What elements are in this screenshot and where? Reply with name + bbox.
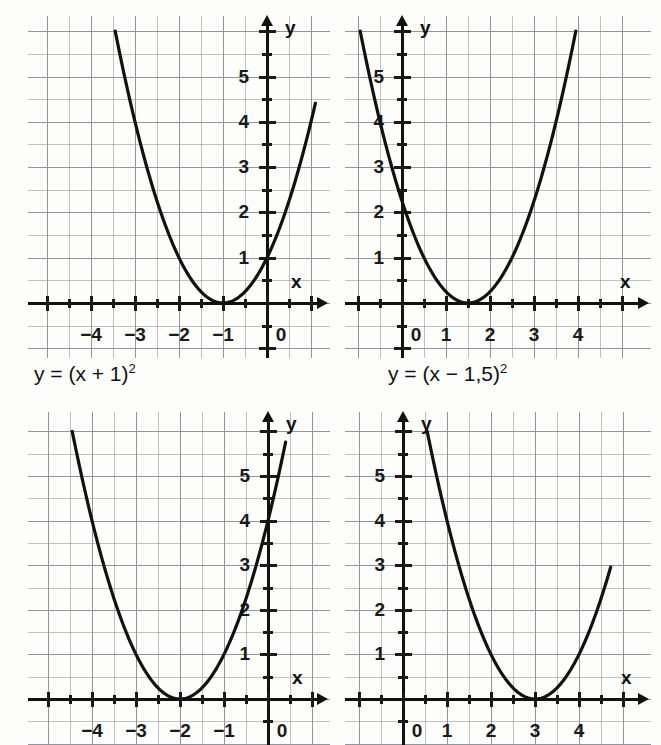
function-label-base: y = (x − 1,5) xyxy=(388,362,500,385)
parabola-curve xyxy=(345,412,651,745)
function-label-exponent: 2 xyxy=(129,361,136,376)
function-label-base: y = (x + 1) xyxy=(34,362,129,385)
function-label: y = (x + 1)2 xyxy=(34,362,136,384)
parabola-curve xyxy=(28,16,330,358)
chart-panel-1: −4−3−2−1012345yxy = (x + 1)2 xyxy=(28,16,330,358)
function-label: y = (x − 1,5)2 xyxy=(388,362,507,384)
parabola-curve xyxy=(28,412,330,745)
parabola-curve xyxy=(345,16,651,358)
chart-panel-3: −4−3−2−1012345yx xyxy=(28,412,330,745)
function-label-exponent: 2 xyxy=(500,361,507,376)
worksheet-figure: −4−3−2−1012345yxy = (x + 1)20123412345yx… xyxy=(0,0,661,745)
chart-panel-2: 0123412345yxy = (x − 1,5)2 xyxy=(345,16,651,358)
chart-panel-4: 0123412345yx xyxy=(345,412,651,745)
